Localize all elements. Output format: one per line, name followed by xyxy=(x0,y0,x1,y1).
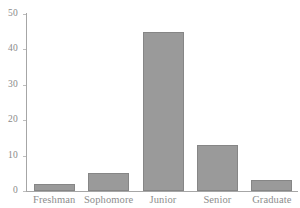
y-axis-tick-mark xyxy=(23,14,26,15)
bar-senior[interactable] xyxy=(197,145,238,191)
category-label-freshman: Freshman xyxy=(27,193,81,207)
y-axis-tick-mark xyxy=(23,85,26,86)
bar-sophomore[interactable] xyxy=(88,173,129,191)
bar-junior[interactable] xyxy=(143,32,184,191)
y-axis-tick-label: 30 xyxy=(0,80,18,90)
category-label-senior: Senior xyxy=(190,193,244,207)
y-axis-tick-mark xyxy=(23,191,26,192)
y-axis-line xyxy=(26,13,27,192)
category-label-graduate: Graduate xyxy=(245,193,299,207)
y-axis-tick-mark xyxy=(23,156,26,157)
bar-chart: 01020304050 FreshmanSophomoreJuniorSenio… xyxy=(0,0,300,208)
y-axis-tick-label: 0 xyxy=(0,186,18,196)
y-axis-tick-label: 50 xyxy=(0,9,18,19)
y-axis-tick-label: 40 xyxy=(0,44,18,54)
category-label-junior: Junior xyxy=(136,193,190,207)
y-axis-tick-mark xyxy=(23,49,26,50)
y-axis-tick-label: 10 xyxy=(0,151,18,161)
bar-graduate[interactable] xyxy=(251,180,292,191)
bar-freshman[interactable] xyxy=(34,184,75,191)
y-axis-tick-mark xyxy=(23,120,26,121)
category-label-sophomore: Sophomore xyxy=(81,193,135,207)
y-axis-tick-label: 20 xyxy=(0,115,18,125)
x-axis-line xyxy=(26,191,298,192)
